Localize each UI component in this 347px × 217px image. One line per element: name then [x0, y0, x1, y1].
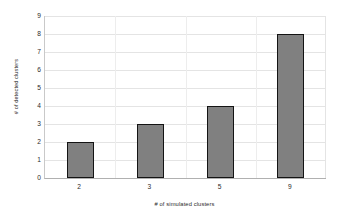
y-axis-tick-label: 1 — [26, 155, 41, 165]
x-axis-tick-label: 9 — [255, 181, 325, 192]
bar — [137, 124, 164, 178]
bar — [67, 142, 94, 178]
bar — [207, 106, 234, 178]
x-axis-tick-labels: 2359 — [44, 181, 325, 192]
y-axis-tick-label: 0 — [26, 173, 41, 183]
y-axis-tick-label: 5 — [26, 83, 41, 93]
x-axis-tick-label: 5 — [185, 181, 255, 192]
y-axis-tick-labels: 0123456789 — [26, 16, 41, 178]
y-axis-tick-label: 4 — [26, 101, 41, 111]
vertical-gridline — [115, 16, 116, 178]
bar-chart: # of detected clusters 0123456789 2359 #… — [0, 0, 347, 217]
vertical-gridline — [186, 16, 187, 178]
y-axis-tick-label: 8 — [26, 29, 41, 39]
vertical-gridline — [256, 16, 257, 178]
plot-right-edge — [325, 16, 326, 178]
plot-area — [44, 16, 326, 179]
y-axis-tick-label: 3 — [26, 119, 41, 129]
x-axis-tick-label: 2 — [44, 181, 114, 192]
y-axis-tick-label: 6 — [26, 65, 41, 75]
y-axis-tick-label: 9 — [26, 11, 41, 21]
x-axis-tick-label: 3 — [114, 181, 184, 192]
y-axis-tick-label: 7 — [26, 47, 41, 57]
y-axis-tick-label: 2 — [26, 137, 41, 147]
y-axis-title: # of detected clusters — [10, 0, 22, 174]
bar — [277, 34, 304, 178]
x-axis-title: # of simulated clusters — [44, 198, 325, 210]
